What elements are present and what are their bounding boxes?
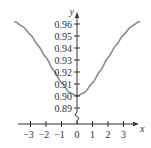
x-axis-label: x	[139, 123, 145, 134]
x-tick-label: 2	[106, 129, 111, 140]
tick-labels: 0.890.900.910.920.930.940.950.96−3−2−101…	[23, 6, 145, 140]
x-tick-label: −3	[23, 129, 34, 140]
axes	[18, 12, 139, 127]
y-axis-label: y	[69, 6, 75, 17]
x-tick-label: −2	[39, 129, 50, 140]
y-axis-break-icon	[75, 112, 79, 124]
y-tick-label: 0.94	[55, 43, 73, 54]
y-axis-arrow-icon	[75, 12, 79, 18]
y-tick-label: 0.90	[55, 91, 73, 102]
y-tick-label: 0.93	[55, 55, 73, 66]
x-tick-label: 1	[90, 129, 95, 140]
y-tick-label: 0.96	[55, 19, 73, 30]
x-axis-arrow-icon	[133, 122, 139, 126]
y-tick-label: 0.89	[55, 103, 73, 114]
x-tick-label: 0	[75, 129, 80, 140]
x-tick-label: 3	[121, 129, 126, 140]
y-tick-label: 0.95	[55, 31, 73, 42]
y-tick-label: 0.92	[55, 67, 73, 78]
x-tick-label: −1	[54, 129, 65, 140]
chart: 0.890.900.910.920.930.940.950.96−3−2−101…	[0, 0, 151, 148]
y-tick-label: 0.91	[55, 79, 73, 90]
